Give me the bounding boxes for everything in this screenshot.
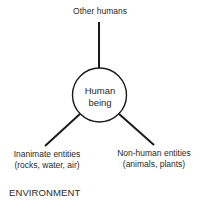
connector-left <box>45 113 81 146</box>
node-human-being: Human being <box>73 85 127 109</box>
center-label-line1: Human <box>73 85 127 97</box>
center-label-line2: being <box>73 97 127 109</box>
environment-label: ENVIRONMENT <box>9 187 80 198</box>
node-inanimate-title: Inanimate entities <box>4 149 90 160</box>
connector-right <box>118 113 154 145</box>
node-non-human-examples: (animals, plants) <box>110 159 198 170</box>
node-other-humans: Other humans <box>50 6 150 17</box>
node-non-human-entities: Non-human entities (animals, plants) <box>110 148 198 170</box>
node-other-humans-label: Other humans <box>50 6 150 17</box>
node-inanimate-examples: (rocks, water, air) <box>4 160 90 171</box>
node-inanimate-entities: Inanimate entities (rocks, water, air) <box>4 149 90 171</box>
node-non-human-title: Non-human entities <box>110 148 198 159</box>
